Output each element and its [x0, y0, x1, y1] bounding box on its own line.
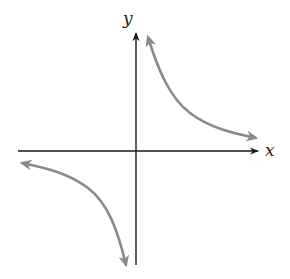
y-axis-label: y [122, 8, 133, 28]
hyperbola-plot: y x [0, 0, 290, 279]
curve-branch-quadrant-3 [22, 163, 126, 265]
curve-branch-quadrant-1 [148, 37, 256, 138]
x-axis-label: x [265, 140, 275, 160]
